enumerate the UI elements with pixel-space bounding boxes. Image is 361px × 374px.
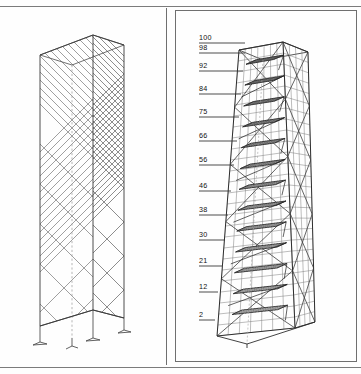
mesh-clad-rectangular-tower-drawing xyxy=(4,8,167,365)
elevation-tick-label: 21 xyxy=(199,257,208,264)
stair-landing xyxy=(236,159,285,180)
tower-base-rail xyxy=(40,310,124,326)
elevation-tick-label: 30 xyxy=(199,231,208,238)
page-rule-top xyxy=(0,6,361,7)
stair-landing xyxy=(231,243,287,264)
base-foot xyxy=(66,338,78,349)
base-foot xyxy=(33,326,47,345)
elevation-tick-label: 66 xyxy=(199,132,208,139)
stair-stringer xyxy=(282,180,286,195)
stair-landing xyxy=(239,180,285,195)
elevation-tick-label: 56 xyxy=(199,156,208,163)
tower-body-outline xyxy=(40,35,124,326)
elevation-tick-label: 98 xyxy=(199,44,208,51)
stair-treads xyxy=(240,159,285,168)
stair-landing xyxy=(239,118,285,139)
elevation-tick-label: 84 xyxy=(199,85,208,92)
stair-stringer xyxy=(285,305,287,320)
elevation-tick-label: 100 xyxy=(199,34,212,41)
base-foot xyxy=(86,310,100,341)
panel-left-mesh-tower xyxy=(4,8,167,365)
figure-canvas: 10098928475665646383021122 xyxy=(0,0,361,374)
base-foot xyxy=(118,318,131,333)
page-rule-bottom xyxy=(0,367,361,368)
elevation-tick-label: 2 xyxy=(199,311,203,318)
stair-landing xyxy=(241,76,284,97)
stair-landing xyxy=(228,284,287,305)
panel-right-stair-tower: 10098928475665646383021122 xyxy=(175,10,357,362)
elevation-tick-label: 75 xyxy=(199,108,208,115)
elevation-tick-label: 92 xyxy=(199,62,208,69)
stair-stringer xyxy=(280,97,285,112)
elevation-tick-label: 38 xyxy=(199,206,208,213)
elevation-tick-label: 46 xyxy=(199,182,208,189)
stair-landing xyxy=(233,201,286,222)
stair-stringer xyxy=(281,138,285,153)
elevation-tick-label: 12 xyxy=(199,283,208,290)
